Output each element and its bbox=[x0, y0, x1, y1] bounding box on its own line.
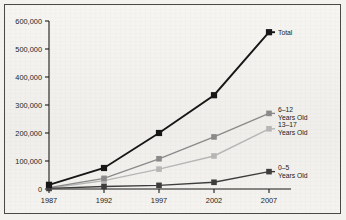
data-point-marker bbox=[266, 126, 272, 132]
series-0-5-years-old: 0–5Years Old bbox=[46, 164, 308, 191]
data-point-marker bbox=[211, 179, 217, 185]
data-point-marker bbox=[156, 183, 162, 189]
y-tick-label: 200,000 bbox=[15, 129, 42, 138]
x-tick-label: 2007 bbox=[261, 196, 277, 205]
y-tick-label: 500,000 bbox=[15, 45, 42, 54]
series-label-line1: Total bbox=[278, 29, 293, 36]
series-label-line2: Years Old bbox=[278, 172, 308, 179]
data-point-marker bbox=[211, 92, 217, 98]
chart-frame: 0100,000200,000300,000400,000500,000600,… bbox=[4, 4, 341, 214]
x-tick-label: 2002 bbox=[206, 196, 222, 205]
series-line bbox=[49, 113, 269, 187]
data-point-marker bbox=[101, 184, 107, 190]
y-tick-label: 600,000 bbox=[15, 17, 42, 26]
plot-area: 0100,000200,000300,000400,000500,000600,… bbox=[5, 5, 340, 213]
x-tick-label: 1987 bbox=[41, 196, 57, 205]
chart-page: 0100,000200,000300,000400,000500,000600,… bbox=[0, 0, 346, 220]
y-tick-label: 400,000 bbox=[15, 73, 42, 82]
series-total: Total bbox=[46, 29, 293, 188]
y-tick-label: 0 bbox=[38, 185, 42, 194]
series-6-12-years-old: 6–12Years Old bbox=[46, 106, 308, 191]
data-point-marker bbox=[211, 153, 217, 159]
data-point-marker bbox=[156, 130, 162, 136]
data-point-marker bbox=[156, 166, 162, 172]
x-tick-label: 1992 bbox=[96, 196, 112, 205]
series-label-line1: 6–12 bbox=[278, 106, 293, 113]
x-tick-label: 1997 bbox=[151, 196, 167, 205]
data-point-marker bbox=[101, 165, 107, 171]
data-point-marker bbox=[101, 176, 107, 182]
series-13-17-years-old: 13–17Years Old bbox=[46, 121, 308, 191]
y-tick-label: 100,000 bbox=[15, 157, 42, 166]
series-label-line2: Years Old bbox=[278, 129, 308, 136]
data-point-marker bbox=[266, 29, 272, 35]
data-point-marker bbox=[156, 156, 162, 162]
line-chart: 0100,000200,000300,000400,000500,000600,… bbox=[5, 5, 342, 215]
series-label-line1: 13–17 bbox=[278, 121, 297, 128]
series-line bbox=[49, 32, 269, 185]
data-point-marker bbox=[46, 182, 52, 188]
y-tick-label: 300,000 bbox=[15, 101, 42, 110]
data-point-marker bbox=[211, 134, 217, 140]
series-label-line1: 0–5 bbox=[278, 164, 290, 171]
data-point-marker bbox=[266, 111, 272, 117]
series-label-line2: Years Old bbox=[278, 114, 308, 121]
data-point-marker bbox=[266, 169, 272, 175]
